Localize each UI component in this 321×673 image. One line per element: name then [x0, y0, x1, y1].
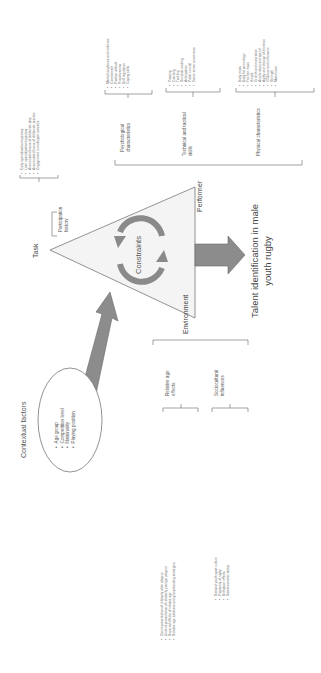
performer-label: Performer	[196, 181, 203, 212]
contextual-factors-title: Contextual factors	[20, 402, 27, 458]
technical-list: Passing Catching Tackling Decision-makin…	[168, 48, 196, 87]
participation-bracket	[52, 212, 57, 236]
technical-item: Game sense awareness	[192, 48, 196, 87]
psychological-item: Coping skills	[126, 38, 130, 88]
psychological-line-2: characteristics	[126, 123, 132, 152]
outcome-line-1: Talent identification in male	[248, 204, 261, 318]
constraints-triangle	[50, 187, 195, 318]
sociocultural-line-2: influences	[220, 370, 226, 396]
constraints-label: Constraints	[134, 236, 143, 274]
task-label: Task	[32, 244, 39, 258]
psychological-list-bracket	[105, 90, 152, 98]
relative-age-list-bracket	[163, 404, 198, 412]
participation-line-2: history	[64, 207, 70, 232]
environment-label: Environment	[182, 295, 189, 334]
performer-bracket	[115, 160, 302, 165]
contextual-factors-list: Age group Competition level Nationality …	[54, 408, 77, 448]
sociocultural-item: Socioeconomic status	[226, 557, 230, 600]
participation-list: Early specialisation trajectory Later sp…	[20, 112, 40, 174]
participation-history-label: Participation history	[58, 207, 70, 232]
contextual-item: Playing position	[71, 408, 77, 448]
outcome-arrow	[195, 236, 245, 274]
participation-item: Engagement in multisport activities	[36, 112, 40, 174]
outcome-line-2: youth rugby	[261, 204, 274, 318]
psychological-label: Psychological characteristics	[120, 123, 132, 152]
physical-list-bracket	[236, 88, 314, 97]
environment-bracket	[153, 340, 248, 345]
relative-age-label: Relative age effects	[165, 370, 177, 396]
physical-list: Body mass Body fat percentage Fat-free m…	[238, 39, 278, 86]
psychological-list: Mental toughness and resilience Commitme…	[106, 38, 130, 88]
relative-age-line-2: effects	[171, 370, 177, 396]
physical-item: Momentum	[274, 39, 278, 86]
sociocultural-label: Sociocultural influences	[214, 370, 226, 396]
physical-label: Physical characteristics	[256, 108, 261, 156]
technical-label: Technical and tactical skills	[182, 112, 194, 156]
sociocultural-list: National youth sport culture Popularity …	[214, 557, 230, 600]
relative-age-item: Relative age solutions and group banding…	[172, 563, 176, 641]
sociocultural-list-bracket	[212, 404, 248, 412]
technical-list-bracket	[166, 88, 220, 97]
relative-age-list: Overrepresentation of relatively older p…	[160, 563, 176, 641]
technical-line-2: skills	[188, 112, 194, 156]
participation-list-bracket	[20, 175, 58, 182]
outcome-text: Talent identification in male youth rugb…	[248, 204, 274, 318]
